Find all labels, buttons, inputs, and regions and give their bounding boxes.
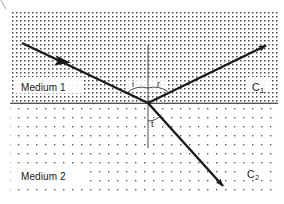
medium-1-label-plate [14, 77, 84, 93]
diagram-canvas [0, 0, 284, 204]
refraction-diagram: Medium 1 Medium 2 C1 C2 i r t [0, 0, 284, 204]
c2-label-plate [241, 164, 267, 179]
angle-i-r-plate [126, 78, 166, 92]
medium-2-label-plate [14, 166, 84, 182]
c1-label-plate [246, 77, 272, 92]
scan-artifact-mark [1, 0, 6, 9]
medium-2-region [10, 104, 278, 196]
